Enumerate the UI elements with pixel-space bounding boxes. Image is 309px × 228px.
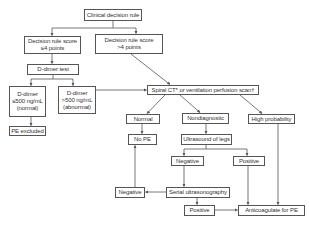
ddimer-test-node: D-dimer test <box>27 64 79 75</box>
node-label: Ultrasound of legs <box>183 136 230 143</box>
node-label: Normal <box>134 116 153 123</box>
node-label: D-dimer <box>17 91 38 98</box>
normal-node: Normal <box>126 114 160 124</box>
node-label: (abnormal) <box>63 104 91 111</box>
node-label: High probability <box>252 116 292 123</box>
node-label: >4 points <box>117 44 141 51</box>
node-label: Decision rule score <box>28 38 77 45</box>
anticoagulate-node: Anticoagulate for PE <box>238 205 305 216</box>
node-label: Spiral CT* or ventilation perfusion scan… <box>152 87 255 94</box>
high-probability-node: High probability <box>248 114 295 124</box>
node-label: ≤500 ng/mL <box>12 98 43 105</box>
node-label: Serial ultrasonography <box>169 189 227 196</box>
node-label: >500 ng/mL <box>62 97 93 104</box>
node-label: Decision rule score <box>104 37 153 44</box>
positive-lower-node: Positive <box>184 205 215 216</box>
positive-upper-node: Positive <box>233 156 265 166</box>
ultrasound-legs-node: Ultrasound of legs <box>181 134 232 145</box>
ddimer-normal-node: D-dimer ≤500 ng/mL (normal) <box>9 86 46 117</box>
no-pe-node: No PE <box>128 134 157 145</box>
pe-excluded-node: PE excluded <box>9 126 46 136</box>
clinical-decision-rule-node: Clinical decision rule <box>84 9 142 21</box>
node-label: Negative <box>176 158 199 165</box>
node-label: Clinical decision rule <box>87 12 140 19</box>
node-label: ≤4 points <box>41 45 64 52</box>
ddimer-abnormal-node: D-dimer >500 ng/mL (abnormal) <box>58 86 96 114</box>
node-label: Anticoagulate for PE <box>245 207 298 214</box>
node-label: Positive <box>239 158 259 165</box>
node-label: PE excluded <box>11 128 44 135</box>
nondiagnostic-node: Nondiagnostic <box>182 113 229 124</box>
node-label: No PE <box>134 136 151 143</box>
node-label: D-dimer test <box>37 66 68 73</box>
serial-ultrasonography-node: Serial ultrasonography <box>166 187 230 198</box>
spiral-ct-node: Spiral CT* or ventilation perfusion scan… <box>147 85 259 95</box>
node-label: Positive <box>189 207 209 214</box>
negative-upper-node: Negative <box>171 156 204 166</box>
node-label: Nondiagnostic <box>187 115 224 122</box>
node-label: Negative <box>119 189 142 196</box>
node-label: D-dimer <box>67 90 88 97</box>
score-low-node: Decision rule score ≤4 points <box>24 36 81 54</box>
negative-left-node: Negative <box>115 187 145 198</box>
score-high-node: Decision rule score >4 points <box>95 34 163 54</box>
node-label: (normal) <box>17 105 39 112</box>
